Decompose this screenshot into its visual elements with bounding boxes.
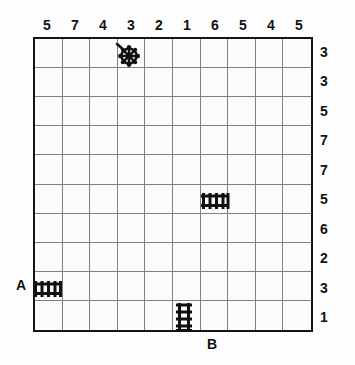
grid-cell[interactable]: [173, 126, 201, 155]
grid-cell[interactable]: [90, 68, 118, 97]
grid-cell[interactable]: [283, 68, 311, 97]
grid-cell[interactable]: [63, 97, 91, 126]
grid-cell[interactable]: [90, 185, 118, 214]
grid-cell[interactable]: [283, 214, 311, 243]
grid-cell[interactable]: [35, 97, 63, 126]
grid-cell[interactable]: [90, 243, 118, 272]
grid-cell[interactable]: [256, 68, 284, 97]
grid-cell[interactable]: [283, 97, 311, 126]
grid-cell[interactable]: [63, 214, 91, 243]
grid-cell[interactable]: [173, 243, 201, 272]
grid-cell[interactable]: [283, 243, 311, 272]
ladder-horizontal-a-icon[interactable]: [33, 279, 63, 299]
grid-cell[interactable]: [201, 272, 229, 301]
grid-cell[interactable]: [63, 126, 91, 155]
grid-cell[interactable]: [283, 301, 311, 330]
grid-cell[interactable]: [63, 272, 91, 301]
grid-cell[interactable]: [173, 185, 201, 214]
grid-cell[interactable]: [228, 97, 256, 126]
grid-cell[interactable]: [118, 243, 146, 272]
grid-cell[interactable]: [228, 155, 256, 184]
grid-cell[interactable]: [201, 301, 229, 330]
grid-cell[interactable]: [256, 243, 284, 272]
grid-cell[interactable]: [145, 185, 173, 214]
grid-cell[interactable]: [145, 243, 173, 272]
grid-cell[interactable]: [201, 214, 229, 243]
grid-cell[interactable]: [118, 301, 146, 330]
grid-cell[interactable]: [173, 272, 201, 301]
ship-wheel-icon[interactable]: [114, 40, 142, 69]
grid-cell[interactable]: [90, 214, 118, 243]
grid-cell[interactable]: [118, 214, 146, 243]
grid-cell[interactable]: [90, 272, 118, 301]
grid-cell[interactable]: [256, 272, 284, 301]
grid-cell[interactable]: [256, 301, 284, 330]
grid-cell[interactable]: [90, 97, 118, 126]
grid-cell[interactable]: [228, 214, 256, 243]
grid-cell[interactable]: [63, 39, 91, 68]
grid-cell[interactable]: [228, 301, 256, 330]
grid-cell[interactable]: [283, 185, 311, 214]
grid-cell[interactable]: [35, 185, 63, 214]
grid-cell[interactable]: [201, 126, 229, 155]
grid-cell[interactable]: [145, 301, 173, 330]
grid-cell[interactable]: [145, 272, 173, 301]
grid-cell[interactable]: [118, 155, 146, 184]
grid-cell[interactable]: [63, 185, 91, 214]
grid-cell[interactable]: [256, 155, 284, 184]
grid-cell[interactable]: [283, 39, 311, 68]
grid-cell[interactable]: [118, 97, 146, 126]
grid-cell[interactable]: [283, 155, 311, 184]
grid-cell[interactable]: [35, 126, 63, 155]
grid-cell[interactable]: [63, 301, 91, 330]
grid-cell[interactable]: [201, 97, 229, 126]
grid-cell[interactable]: [173, 155, 201, 184]
grid-cell[interactable]: [90, 301, 118, 330]
grid-cell[interactable]: [228, 39, 256, 68]
grid-cell[interactable]: [201, 155, 229, 184]
grid-cell[interactable]: [256, 214, 284, 243]
grid-cell[interactable]: [283, 272, 311, 301]
grid-cell[interactable]: [63, 68, 91, 97]
grid-cell[interactable]: [118, 185, 146, 214]
grid-cell[interactable]: [145, 97, 173, 126]
grid-cell[interactable]: [173, 68, 201, 97]
grid-cell[interactable]: [228, 126, 256, 155]
grid-cell[interactable]: [145, 214, 173, 243]
grid-cell[interactable]: [228, 243, 256, 272]
grid-cell[interactable]: [201, 68, 229, 97]
grid-cell[interactable]: [256, 39, 284, 68]
puzzle-grid[interactable]: [33, 37, 313, 332]
grid-cell[interactable]: [173, 97, 201, 126]
grid-cell[interactable]: [118, 272, 146, 301]
grid-cell[interactable]: [256, 126, 284, 155]
grid-cell[interactable]: [90, 155, 118, 184]
grid-cell[interactable]: [228, 68, 256, 97]
grid-cell[interactable]: [145, 126, 173, 155]
grid-cell[interactable]: [118, 68, 146, 97]
grid-cell[interactable]: [145, 68, 173, 97]
grid-cell[interactable]: [35, 39, 63, 68]
grid-cell[interactable]: [228, 272, 256, 301]
grid-cell[interactable]: [201, 39, 229, 68]
grid-cell[interactable]: [63, 243, 91, 272]
grid-cell[interactable]: [145, 155, 173, 184]
grid-cell[interactable]: [35, 214, 63, 243]
grid-cell[interactable]: [201, 243, 229, 272]
grid-cell[interactable]: [118, 126, 146, 155]
grid-cell[interactable]: [90, 126, 118, 155]
grid-cell[interactable]: [35, 155, 63, 184]
grid-cell[interactable]: [228, 185, 256, 214]
grid-cell[interactable]: [256, 97, 284, 126]
grid-cell[interactable]: [63, 155, 91, 184]
ladder-vertical-b-icon[interactable]: [174, 302, 194, 332]
grid-cell[interactable]: [173, 214, 201, 243]
grid-cell[interactable]: [173, 39, 201, 68]
grid-cell[interactable]: [256, 185, 284, 214]
ladder-horizontal-icon[interactable]: [200, 191, 230, 211]
grid-cell[interactable]: [145, 39, 173, 68]
grid-cell[interactable]: [35, 68, 63, 97]
grid-cell[interactable]: [35, 301, 63, 330]
grid-cell[interactable]: [35, 243, 63, 272]
grid-cell[interactable]: [283, 126, 311, 155]
